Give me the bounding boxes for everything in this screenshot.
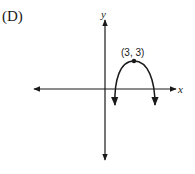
vertex-point	[132, 59, 136, 63]
coordinate-graph	[0, 0, 195, 174]
parabola-curve	[115, 61, 155, 105]
